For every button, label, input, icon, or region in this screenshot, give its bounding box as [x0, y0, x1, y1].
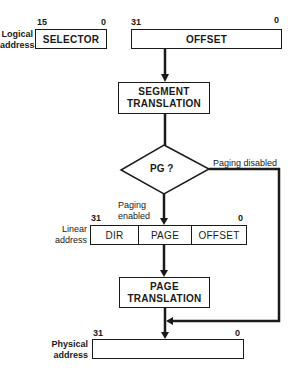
segment-translation-line1: SEGMENT	[127, 86, 201, 98]
selector-label: SELECTOR	[43, 34, 100, 45]
arrowhead-icon	[161, 74, 169, 82]
linear-field-offset: OFFSET	[192, 226, 246, 244]
selector-bit-high: 15	[37, 17, 47, 27]
linear-address-label-line2: address	[50, 235, 87, 246]
physical-address-label-line1: Physical	[48, 339, 88, 350]
offset-label: OFFSET	[186, 34, 227, 45]
page-translation-box: PAGE TRANSLATION	[119, 277, 210, 308]
arrowhead-icon	[161, 332, 169, 339]
offset-field: OFFSET	[131, 29, 282, 49]
selector-bit-low: 0	[101, 17, 106, 27]
physical-address-label-line2: address	[48, 350, 88, 361]
arrowhead-icon	[160, 218, 168, 225]
logical-address-label: Logical address	[0, 29, 33, 51]
linear-bit-high: 31	[91, 213, 101, 223]
page-translation-line1: PAGE	[127, 281, 201, 293]
offset-bit-high: 31	[131, 17, 141, 27]
linear-field-dir: DIR	[91, 226, 139, 244]
linear-field-page: PAGE	[139, 226, 192, 244]
physical-bit-low: 0	[235, 328, 240, 338]
arrowhead-icon	[166, 317, 173, 325]
paging-disabled-label: Paging disabled	[213, 158, 277, 169]
offset-bit-low: 0	[274, 15, 279, 25]
paging-enabled-label: Paging enabled	[118, 200, 160, 222]
physical-bit-high: 31	[93, 328, 103, 338]
linear-address-field: DIR PAGE OFFSET	[90, 225, 247, 245]
linear-address-label-line1: Linear	[50, 224, 87, 235]
decision-label: PG ?	[150, 163, 173, 174]
logical-address-label-line1: Logical	[0, 29, 33, 40]
physical-address-field	[92, 339, 244, 359]
paging-enabled-line2: enabled	[118, 211, 160, 222]
selector-field: SELECTOR	[35, 29, 107, 49]
physical-address-label: Physical address	[48, 339, 88, 361]
linear-address-label: Linear address	[50, 224, 87, 246]
arrowhead-icon	[160, 270, 168, 277]
flow-connectors	[0, 0, 295, 373]
paging-enabled-line1: Paging	[118, 200, 160, 211]
page-translation-line2: TRANSLATION	[127, 293, 201, 305]
linear-bit-low: 0	[238, 213, 243, 223]
segment-translation-line2: TRANSLATION	[127, 98, 201, 110]
segment-translation-box: SEGMENT TRANSLATION	[118, 82, 210, 114]
logical-address-label-line2: address	[0, 40, 33, 51]
